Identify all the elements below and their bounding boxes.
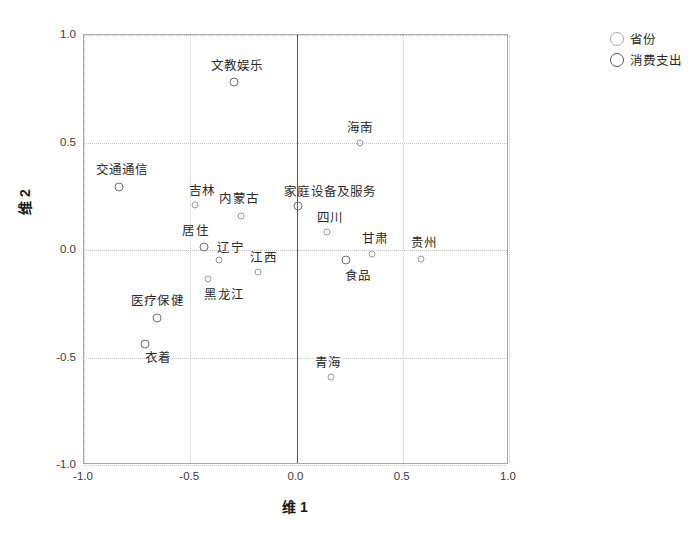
y-axis-tick-label: -0.5 [56,351,76,363]
data-point [153,313,162,322]
data-point [205,276,212,283]
legend-label: 消费支出 [630,50,682,69]
data-point [255,268,262,275]
data-point [293,201,302,210]
legend-label: 省份 [630,29,656,48]
legend: 省份 消费支出 [610,28,696,70]
x-axis-tick-label: 0.0 [288,470,304,482]
data-point-label: 衣着 [145,347,171,366]
data-point [229,78,238,87]
data-point-label: 黑龙江 [204,284,244,303]
data-point [215,256,222,263]
y-axis-tick-label: 1.0 [60,28,76,40]
data-point-label: 海南 [347,117,373,136]
data-point [200,242,209,251]
gridline-vertical [509,35,510,463]
data-point [327,373,334,380]
data-point-label: 内蒙古 [219,188,259,207]
y-axis-tick-label: 0.0 [60,243,76,255]
data-point [191,201,198,208]
data-point-label: 交通通信 [96,159,149,178]
plot-area: 海南吉林内蒙古四川甘肃贵州辽宁江西黑龙江青海文教娱乐交通通信家庭设备及服务居住食… [83,34,508,464]
data-point-label: 青海 [315,351,341,370]
data-point [324,228,331,235]
gridline-vertical [403,35,404,463]
y-axis-title: 维 2 [14,189,34,215]
x-axis-title: 维 1 [0,496,590,516]
data-point-label: 医疗保健 [131,290,184,309]
circle-marker-icon [610,53,624,67]
data-point-label: 居住 [182,219,208,238]
data-point-label: 文教娱乐 [211,55,264,74]
gridline-horizontal [84,143,507,144]
data-point [342,255,351,264]
y-axis-tick-label: 0.5 [60,136,76,148]
circle-marker-icon [610,32,624,46]
y-axis-tick-label: -1.0 [56,458,76,470]
axis-vertical-zero [297,35,298,463]
data-point [238,212,245,219]
x-axis-tick-label: -1.0 [73,470,93,482]
data-point-label: 家庭设备及服务 [284,180,376,199]
x-axis-tick-label: -0.5 [179,470,199,482]
x-axis-tick-label: 1.0 [500,470,516,482]
gridline-horizontal [84,250,507,251]
data-point-label: 食品 [345,264,371,283]
data-point [417,255,424,262]
x-axis-tick-label: 0.5 [394,470,410,482]
data-point-label: 辽宁 [217,236,243,255]
data-point-label: 甘肃 [362,228,388,247]
legend-item-province: 省份 [610,28,696,49]
gridline-horizontal [84,465,507,466]
data-point-label: 吉林 [189,179,215,198]
legend-item-expense: 消费支出 [610,49,696,70]
data-point-label: 贵州 [411,232,437,251]
gridline-horizontal [84,35,507,36]
correspondence-analysis-plot: 海南吉林内蒙古四川甘肃贵州辽宁江西黑龙江青海文教娱乐交通通信家庭设备及服务居住食… [0,0,700,541]
data-point-label: 四川 [317,206,343,225]
data-point-label: 江西 [250,247,276,266]
gridline-vertical [190,35,191,463]
gridline-vertical [84,35,85,463]
data-point [115,182,124,191]
data-point [357,139,364,146]
data-point [368,251,375,258]
